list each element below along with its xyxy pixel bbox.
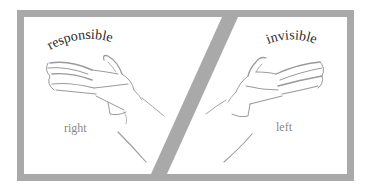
background bbox=[0, 0, 371, 189]
illustration: responsible invisible right left bbox=[0, 0, 371, 189]
left-bottom-label: right bbox=[64, 121, 87, 135]
right-bottom-label: left bbox=[276, 120, 293, 134]
